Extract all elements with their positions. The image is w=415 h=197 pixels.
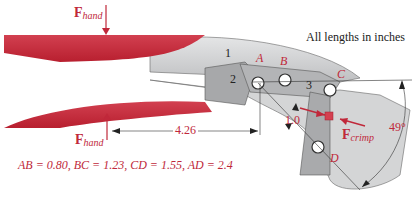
angle-49: 49° [389,121,406,133]
link-2-label: 2 [230,73,236,85]
point-d-label: D [330,152,339,164]
force-hand-bottom-label: Fhand [75,133,104,147]
dimension-4-26: 4.26 [173,124,198,136]
force-crimp-label: Fcrimp [342,128,374,142]
dimension-1-0: 1.0 [285,114,300,126]
pin-d [312,141,324,153]
units-note: All lengths in inches [306,31,405,43]
pin-b [279,74,291,86]
point-b-label: B [280,55,287,67]
link-1-label: 1 [225,47,231,59]
point-a-label: A [256,52,263,64]
force-hand-top-label: Fhand [74,6,103,20]
link-3-label: 3 [306,79,312,91]
pin-c [324,84,336,96]
link-lengths-equation: AB = 0.80, BC = 1.23, CD = 1.55, AD = 2.… [18,159,233,171]
point-c-label: C [337,68,345,80]
